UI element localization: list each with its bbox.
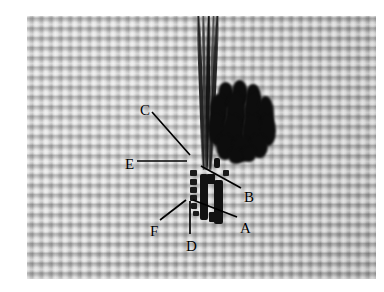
label-c: C	[140, 103, 150, 118]
annotation-overlay: CEBAFD	[27, 16, 376, 279]
leader-lines	[27, 16, 376, 279]
leader-line-a	[193, 200, 237, 217]
label-b: B	[244, 190, 254, 205]
label-a: A	[240, 221, 251, 236]
label-e: E	[125, 157, 134, 172]
photograph: CEBAFD	[27, 16, 376, 279]
label-d: D	[186, 239, 197, 254]
figure-canvas: CEBAFD	[0, 0, 384, 292]
label-f: F	[150, 224, 158, 239]
leader-line-b	[201, 166, 241, 188]
leader-line-f	[160, 200, 186, 220]
leader-line-c	[152, 112, 190, 155]
